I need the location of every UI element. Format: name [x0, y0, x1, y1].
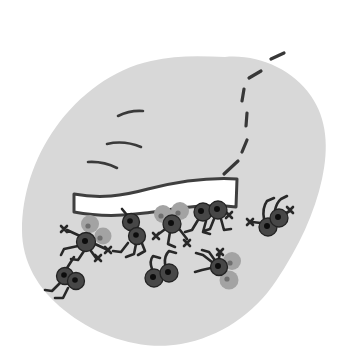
ant-plank-left-cargo-1 — [81, 215, 99, 233]
ant-plank-center-cargo-1-dot — [158, 213, 163, 218]
ant-bottom-right-body-dot — [215, 263, 221, 269]
ant-bottom-right-cargo-1-dot — [227, 260, 232, 265]
ant-plank-right-body-1-dot — [198, 208, 204, 214]
ant-bottom-left-body-2-dot — [72, 277, 78, 283]
ant-bottom-left-body-1-dot — [61, 272, 67, 278]
ant-bottom-center-body-2-dot — [165, 269, 171, 275]
ant-bottom-right-cargo-2-dot — [224, 276, 229, 281]
ant-plank-center-cargo-2-dot — [175, 210, 180, 215]
ant-plank-center-body-dot — [168, 220, 174, 226]
ant-plank-left-cargo-1-dot — [85, 223, 90, 228]
ant-right-overturned-body-2-dot — [275, 214, 281, 220]
ant-plank-left-cargo-2-dot — [97, 235, 102, 240]
ant-plank-midleft-body-1-dot — [127, 218, 133, 224]
ant-plank-left-cargo-2 — [95, 228, 112, 245]
ant-right-overturned-body-1-dot — [264, 223, 270, 229]
illustration — [0, 0, 357, 364]
ant-plank-left-body-dot — [82, 238, 88, 244]
ant-plank-midleft-body-2-dot — [133, 232, 139, 238]
ant-bottom-center-body-1-dot — [150, 274, 156, 280]
ants-plank-blob-drawing — [0, 0, 357, 364]
ant-plank-right-body-2-dot — [214, 206, 220, 212]
